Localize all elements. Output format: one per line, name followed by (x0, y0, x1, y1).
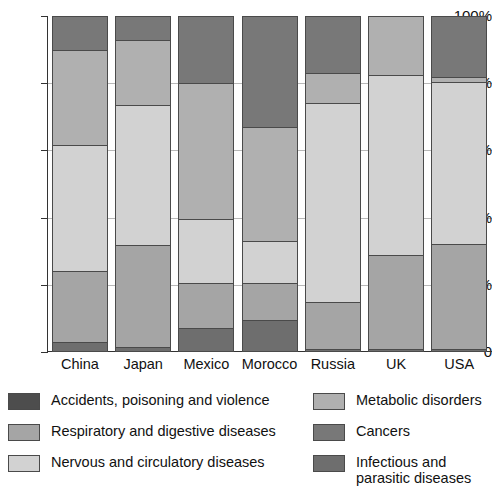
legend-swatch-cancers (313, 424, 345, 441)
bar-segment[interactable] (431, 16, 487, 76)
x-axis-tick-label-russia: Russia (305, 357, 361, 372)
legend-item[interactable]: Nervous and circulatory diseases (8, 454, 308, 472)
bar-uk[interactable] (368, 16, 424, 352)
legend-item-label: Respiratory and digestive diseases (51, 423, 276, 439)
bar-segment[interactable] (178, 83, 234, 219)
bar-morocco[interactable] (242, 16, 298, 352)
bar-segment[interactable] (305, 103, 361, 301)
bar-segment[interactable] (305, 302, 361, 350)
stacked-bar-chart: 020%40%60%80%100% ChinaJapanMexicoMorocc… (0, 0, 492, 491)
legend-swatch-respiratory (8, 424, 40, 441)
legend-item[interactable]: Metabolic disorders (313, 392, 492, 410)
legend-item[interactable]: Cancers (313, 423, 492, 441)
bar-china[interactable] (52, 16, 108, 352)
bar-segment[interactable] (52, 145, 108, 271)
bar-segment[interactable] (178, 328, 234, 352)
bar-segment[interactable] (305, 16, 361, 73)
bar-segment[interactable] (368, 349, 424, 352)
legend-item-label: Accidents, poisoning and violence (51, 392, 269, 408)
bar-segment[interactable] (115, 40, 171, 106)
legend-item-label: Nervous and circulatory diseases (51, 454, 265, 470)
chart-legend: Accidents, poisoning and violenceRespira… (0, 392, 492, 491)
legend-item[interactable]: Respiratory and digestive diseases (8, 423, 308, 441)
plot-area: 020%40%60%80%100% ChinaJapanMexicoMorocc… (0, 0, 492, 388)
bar-segment[interactable] (115, 245, 171, 347)
legend-swatch-infectious (313, 455, 345, 472)
bar-russia[interactable] (305, 16, 361, 352)
legend-item-label: Infectious andparasitic diseases (356, 454, 471, 486)
bar-segment[interactable] (52, 16, 108, 50)
bar-segment[interactable] (431, 82, 487, 245)
bar-segment[interactable] (305, 73, 361, 103)
bar-segment[interactable] (115, 105, 171, 244)
bar-segment[interactable] (242, 283, 298, 320)
bar-segment[interactable] (178, 16, 234, 83)
legend-swatch-nervous (8, 455, 40, 472)
bar-segment[interactable] (52, 271, 108, 342)
bar-segment[interactable] (368, 255, 424, 350)
bar-segment[interactable] (242, 320, 298, 352)
bar-segment[interactable] (431, 349, 487, 352)
legend-item-label: Metabolic disorders (356, 392, 482, 408)
x-axis-tick-label-uk: UK (368, 357, 424, 372)
legend-item[interactable]: Infectious andparasitic diseases (313, 454, 492, 486)
y-axis-tick-mark (41, 352, 48, 353)
bar-segment[interactable] (305, 349, 361, 352)
bar-segment[interactable] (368, 16, 424, 75)
x-axis-tick-label-usa: USA (431, 357, 487, 372)
bar-segment[interactable] (178, 219, 234, 283)
bar-segment[interactable] (431, 244, 487, 349)
bar-segment[interactable] (178, 283, 234, 328)
legend-item-label: Cancers (356, 423, 410, 439)
x-axis-tick-label-mexico: Mexico (178, 357, 234, 372)
bar-segment[interactable] (52, 342, 108, 352)
bar-usa[interactable] (431, 16, 487, 352)
legend-swatch-metabolic (313, 393, 345, 410)
legend-column-right: Metabolic disordersCancersInfectious and… (313, 392, 492, 491)
x-axis-tick-label-japan: Japan (115, 357, 171, 372)
bar-segment[interactable] (242, 127, 298, 241)
bar-mexico[interactable] (178, 16, 234, 352)
bar-segment[interactable] (115, 347, 171, 352)
bar-segment[interactable] (242, 16, 298, 127)
bar-segment[interactable] (242, 241, 298, 283)
bar-japan[interactable] (115, 16, 171, 352)
bar-segment[interactable] (115, 16, 171, 40)
x-axis-tick-label-morocco: Morocco (242, 357, 298, 372)
legend-item[interactable]: Accidents, poisoning and violence (8, 392, 308, 410)
bar-segment[interactable] (52, 50, 108, 146)
legend-column-left: Accidents, poisoning and violenceRespira… (8, 392, 308, 485)
bars-layer (47, 16, 492, 352)
legend-swatch-accidents (8, 393, 40, 410)
bar-segment[interactable] (368, 75, 424, 255)
x-axis-tick-label-china: China (52, 357, 108, 372)
